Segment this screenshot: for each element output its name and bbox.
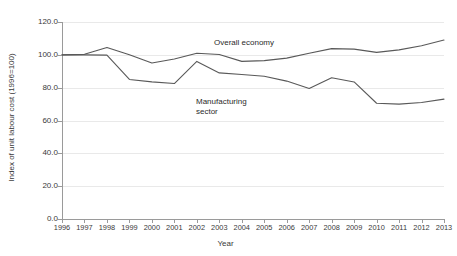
- y-tick-mark: [57, 88, 62, 89]
- series-line-manufacturing-sector: [62, 55, 444, 104]
- y-axis-title: Index of unit labour cost (1996=100): [7, 28, 16, 208]
- x-axis-title: Year: [0, 239, 451, 248]
- y-tick-mark: [57, 22, 62, 23]
- y-tick-mark: [57, 121, 62, 122]
- y-tick-mark: [57, 186, 62, 187]
- y-tick-mark: [57, 153, 62, 154]
- annotation-manufacturing-sector: Manufacturing sector: [196, 97, 247, 116]
- annotation-overall-economy: Overall economy: [214, 38, 274, 48]
- y-tick-mark: [57, 55, 62, 56]
- y-tick-mark: [57, 219, 62, 220]
